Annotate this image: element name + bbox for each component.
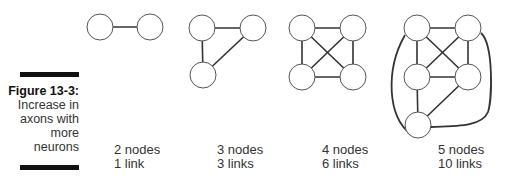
node (340, 15, 366, 41)
node-count-text: 5 nodes (438, 143, 484, 157)
node (405, 112, 431, 138)
node (455, 15, 481, 41)
link-count-text: 3 links (217, 157, 263, 171)
link-count-text: 6 links (322, 157, 368, 171)
node-count-text: 4 nodes (322, 143, 368, 157)
graph-3-nodes (189, 15, 266, 88)
node-count-text: 2 nodes (114, 143, 160, 157)
node (137, 14, 163, 40)
graph-2-nodes (87, 14, 163, 40)
node-count-text: 3 nodes (217, 143, 263, 157)
node (455, 64, 481, 90)
node (87, 14, 113, 40)
node (189, 15, 215, 41)
graph-label: 5 nodes10 links (438, 143, 484, 171)
graph-5-nodes (392, 15, 491, 138)
node (404, 64, 430, 90)
node (404, 15, 430, 41)
graph-label: 3 nodes3 links (217, 143, 263, 171)
graph-4-nodes (289, 15, 366, 90)
link-count-text: 1 link (114, 157, 160, 171)
graph-label: 2 nodes1 link (114, 143, 160, 171)
node (289, 64, 315, 90)
node (340, 64, 366, 90)
link-count-text: 10 links (438, 157, 484, 171)
graph-label: 4 nodes6 links (322, 143, 368, 171)
node (190, 62, 216, 88)
node (289, 15, 315, 41)
node (240, 15, 266, 41)
